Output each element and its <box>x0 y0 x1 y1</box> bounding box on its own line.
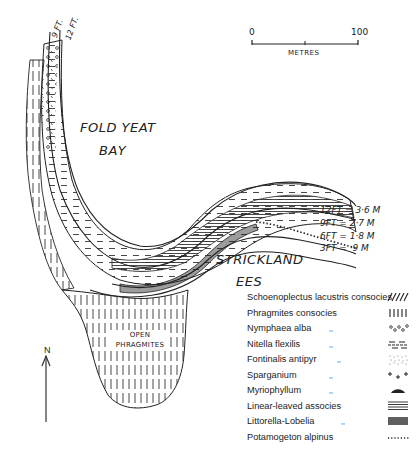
plus-signs-icon <box>385 368 411 382</box>
place-label-open-phragmites: OPEN PHRAGMITES <box>110 330 170 350</box>
diagonal-hatch-icon <box>385 290 411 304</box>
depth-label-6ft: 6FT = 1·8 M <box>320 231 375 241</box>
legend-item: Phragmites consocies <box>247 306 413 322</box>
legend-item-name: Littorella-Lobelia <box>247 414 314 429</box>
legend-item: Nitella flexilis ,, <box>247 337 413 353</box>
north-label: N <box>44 345 51 355</box>
legend-item-name: Potamogeton alpinus <box>247 430 333 445</box>
scale-bar <box>252 40 358 45</box>
north-arrow-icon <box>42 356 50 422</box>
legend-item-name: Sparganium <box>247 368 297 383</box>
legend-item: Schoenoplectus lacustris consocies <box>247 290 413 306</box>
legend-item-name: Nymphaea alba <box>247 321 311 336</box>
legend-item: Linear-leaved associes <box>247 399 413 415</box>
legend-item: Fontinalis antipyr ,, <box>247 352 413 368</box>
legend-item-name: Myriophyllum <box>247 383 301 398</box>
place-label-fold-yeat: FOLD YEAT <box>80 120 156 135</box>
legend-item-name: Linear-leaved associes <box>247 399 341 414</box>
depth-label-3ft: 3FT = ·9 M <box>320 243 369 253</box>
ditto-mark: ,, <box>341 414 345 429</box>
place-label-strickland: STRICKLAND <box>216 252 304 267</box>
legend-item-name: Phragmites consocies <box>247 306 337 321</box>
legend-item: Potamogeton alpinus <box>247 430 413 446</box>
ditto-mark: ,, <box>329 383 333 398</box>
mound-icon <box>385 383 411 397</box>
dotted-line-icon <box>385 430 411 444</box>
stipple-icon <box>385 352 411 366</box>
dense-vertical-icon <box>385 414 411 428</box>
depth-label-12ft: 12FT = 3·6 M <box>320 205 380 215</box>
legend-item-name: Schoenoplectus lacustris consocies <box>247 290 392 305</box>
small-circles-icon <box>385 321 411 335</box>
legend-item-name: Fontinalis antipyr <box>247 352 316 367</box>
ditto-mark: ,, <box>329 368 333 383</box>
phragmites-text: PHRAGMITES <box>110 340 170 350</box>
place-label-bay: BAY <box>99 143 126 158</box>
ditto-mark: ,, <box>329 321 333 336</box>
legend-item-name: Nitella flexilis <box>247 337 300 352</box>
ditto-mark: ,, <box>329 337 333 352</box>
horizontal-lines-icon <box>385 399 411 413</box>
dashes-icon <box>385 337 411 351</box>
depth-label-9ft: 9FT = 2·7 M <box>320 218 375 228</box>
scale-unit-label: METRES <box>288 49 319 57</box>
legend-item: Littorella-Lobelia ,, <box>247 414 413 430</box>
open-text: OPEN <box>110 330 170 340</box>
scale-end-label: 100 <box>351 27 368 37</box>
place-label-ees: EES <box>236 274 262 289</box>
legend-item: Sparganium ,, <box>247 368 413 384</box>
legend: Schoenoplectus lacustris consocies Phrag… <box>247 290 413 445</box>
scale-start-label: 0 <box>249 27 255 37</box>
legend-item: Nymphaea alba ,, <box>247 321 413 337</box>
legend-item: Myriophyllum ,, <box>247 383 413 399</box>
ditto-mark: ,, <box>337 352 341 367</box>
vertical-bars-icon <box>385 306 411 320</box>
